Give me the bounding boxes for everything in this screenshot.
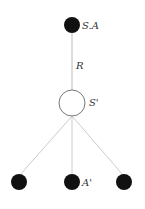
label-middle-node: S': [89, 97, 99, 108]
edge-middle-to-bottom-left: [20, 116, 72, 175]
label-edge-r: R: [75, 60, 84, 71]
node-bottom-center-filled: [64, 174, 80, 190]
node-bottom-right-filled: [116, 174, 132, 190]
label-top-node: S.A: [82, 20, 99, 31]
tree-diagram: S.A R S' A': [0, 0, 145, 209]
node-bottom-left-filled: [11, 174, 27, 190]
node-top-filled: [64, 17, 80, 33]
label-bottom-center-node: A': [81, 177, 92, 188]
node-middle-hollow: [59, 90, 85, 116]
edge-middle-to-bottom-right: [72, 116, 123, 175]
